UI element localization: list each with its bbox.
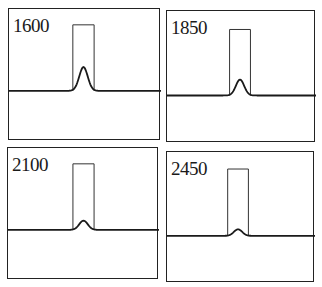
panel-2100: 2100 bbox=[7, 147, 158, 279]
gaussian-response-line bbox=[9, 67, 161, 91]
gaussian-response-line bbox=[167, 80, 316, 96]
rect-pulse-line bbox=[73, 25, 94, 91]
panel-1850: 1850 bbox=[166, 10, 315, 142]
rect-pulse-line bbox=[228, 169, 249, 236]
plot-area bbox=[9, 9, 161, 141]
panel-2450: 2450 bbox=[166, 151, 314, 282]
panel-1600: 1600 bbox=[8, 8, 160, 140]
plot-area bbox=[8, 148, 159, 280]
plot-area bbox=[167, 152, 315, 283]
rect-pulse-line bbox=[230, 29, 251, 95]
gaussian-response-line bbox=[167, 229, 315, 236]
gaussian-response-line bbox=[8, 221, 159, 230]
plot-area bbox=[167, 11, 316, 143]
